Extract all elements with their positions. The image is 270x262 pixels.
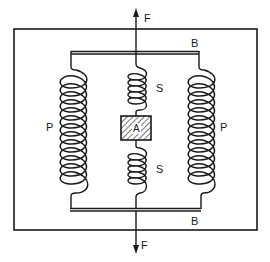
spring-label-right: P [220,122,227,133]
right-spring [188,51,215,209]
spring-label-left: P [46,122,53,133]
lower-center-spring [128,140,147,209]
top-force-arrow [133,8,139,54]
spring-label-center-upper: S [156,83,163,94]
bottom-force-arrow [133,211,139,254]
force-label-top: F [144,13,151,24]
upper-center-spring [128,54,147,116]
left-spring [60,51,88,209]
spring-label-center-lower: S [156,164,163,175]
plate-label-bottom: B [191,216,198,227]
top-plate [71,52,199,55]
plate-label-top: B [191,38,198,49]
force-label-bottom: F [141,240,148,251]
mass-label: A [132,123,141,134]
